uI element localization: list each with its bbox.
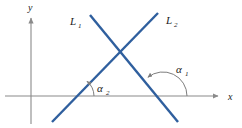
x-axis-label: x — [227, 91, 233, 102]
angle-label-alpha2-text: α — [97, 82, 103, 94]
line-label-L1-subscript: 1 — [78, 22, 82, 30]
angle-label-alpha2-subscript: 2 — [106, 89, 110, 97]
line-label-L1-text: L — [69, 15, 76, 27]
figure-canvas: x y L 1 L 2 α 1 α 2 — [0, 0, 242, 128]
angle-label-alpha1-subscript: 1 — [185, 70, 189, 78]
y-axis-label: y — [27, 2, 33, 13]
angle-label-alpha1-text: α — [176, 63, 182, 75]
line-label-L2-text: L — [165, 14, 172, 26]
line-label-L2-subscript: 2 — [174, 21, 178, 29]
figure-background — [0, 0, 242, 128]
geometry-figure: x y L 1 L 2 α 1 α 2 — [0, 0, 242, 128]
